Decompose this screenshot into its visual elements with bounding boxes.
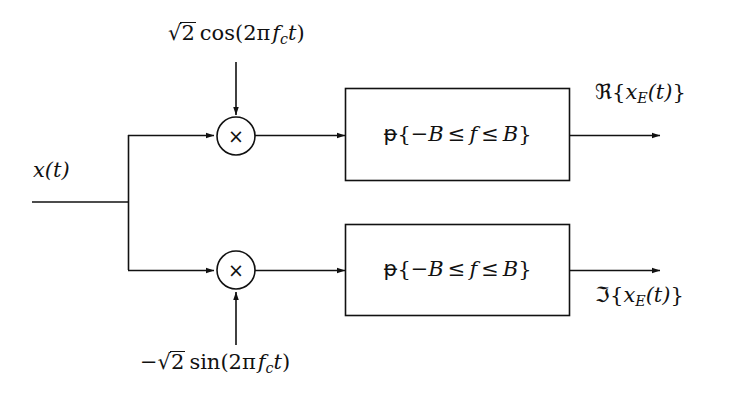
filter-le-right: ≤: [481, 122, 499, 146]
imaginary-signal-symbol: x: [623, 283, 635, 307]
in-phase-filter-label: ᵽ{−B≤f≤B}: [345, 122, 570, 146]
sine-open-paren: (: [220, 350, 228, 374]
real-signal-subscript: E: [637, 90, 647, 106]
filter-open-brace: {: [397, 122, 410, 146]
real-signal-symbol: x: [625, 80, 637, 104]
filter-positive-bandwidth: B: [503, 257, 518, 281]
sin-function: sin: [189, 350, 220, 374]
wiring-layer: [0, 0, 737, 405]
real-signal-arg: (t): [648, 80, 673, 104]
filter-frequency-symbol: f: [469, 257, 477, 281]
filter-le-right: ≤: [481, 257, 499, 281]
real-part-operator-icon: ℜ: [595, 80, 612, 104]
sine-radicand: 2: [170, 351, 185, 373]
sine-carrier-label: −√2sin(2πfct): [140, 351, 290, 375]
cosine-carrier-freq-subscript: c: [280, 31, 288, 47]
filter-negative-bandwidth: −B: [411, 257, 444, 281]
quadrature-filter-label: ᵽ{−B≤f≤B}: [345, 257, 570, 281]
cosine-two-pi: 2π: [243, 21, 270, 45]
filter-close-brace: }: [518, 257, 531, 281]
block-diagram-canvas: × × x(t) √2cos(2πfct) −√2sin(2πfct) ᵽ{−B…: [0, 0, 737, 405]
filter-le-left: ≤: [448, 122, 466, 146]
real-part-output-label: ℜ{xE(t)}: [595, 82, 686, 105]
real-open-brace: {: [612, 80, 625, 104]
imaginary-close-brace: }: [670, 283, 683, 307]
sine-minus-sign: −: [140, 350, 158, 374]
imaginary-part-operator-icon: ℑ: [595, 283, 610, 307]
cosine-radicand: 2: [180, 22, 195, 44]
cos-function: cos: [200, 21, 235, 45]
indicator-function-icon: ᵽ: [383, 257, 397, 281]
quadrature-mixer-times-icon: ×: [222, 261, 250, 280]
sine-two-pi: 2π: [229, 350, 256, 374]
filter-open-brace: {: [397, 257, 410, 281]
imaginary-signal-subscript: E: [635, 293, 645, 309]
input-signal-label: x(t): [33, 160, 70, 181]
filter-le-left: ≤: [448, 257, 466, 281]
sine-close-paren: ): [282, 350, 290, 374]
input-signal-symbol: x: [33, 158, 45, 182]
sqrt-icon: √: [158, 350, 171, 374]
filter-positive-bandwidth: B: [503, 122, 518, 146]
cosine-open-paren: (: [235, 21, 243, 45]
indicator-function-icon: ᵽ: [383, 122, 397, 146]
sine-carrier-freq-subscript: c: [266, 360, 274, 376]
filter-negative-bandwidth: −B: [411, 122, 444, 146]
sine-carrier-freq-symbol: f: [258, 350, 266, 374]
imaginary-part-output-label: ℑ{xE(t)}: [595, 285, 684, 308]
imaginary-open-brace: {: [610, 283, 623, 307]
cosine-carrier-freq-symbol: f: [272, 21, 280, 45]
input-signal-arg: (t): [45, 158, 70, 182]
in-phase-mixer-times-icon: ×: [222, 127, 250, 146]
cosine-carrier-label: √2cos(2πfct): [168, 22, 305, 46]
cosine-time-symbol: t: [288, 21, 296, 45]
imaginary-signal-arg: (t): [646, 283, 671, 307]
sine-time-symbol: t: [274, 350, 282, 374]
filter-frequency-symbol: f: [469, 122, 477, 146]
sqrt-icon: √: [168, 21, 181, 45]
cosine-close-paren: ): [297, 21, 305, 45]
real-close-brace: }: [672, 80, 685, 104]
filter-close-brace: }: [518, 122, 531, 146]
